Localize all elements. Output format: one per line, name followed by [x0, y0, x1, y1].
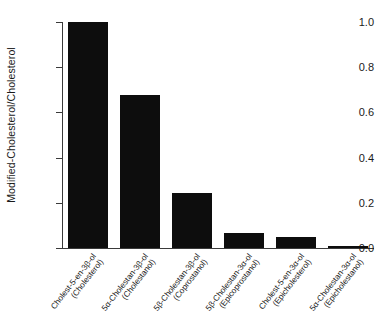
y-axis-title: Modified-Cholesterol/Cholesterol [0, 0, 22, 250]
bar[interactable] [224, 233, 264, 248]
bar[interactable] [120, 95, 160, 248]
bar[interactable] [276, 237, 316, 248]
y-axis-title-text: Modified-Cholesterol/Cholesterol [5, 47, 17, 203]
bar[interactable] [328, 246, 368, 248]
bar-chart: Modified-Cholesterol/Cholesterol 1.00.80… [0, 0, 382, 334]
plot-area [62, 22, 374, 248]
bar[interactable] [68, 22, 108, 248]
bar[interactable] [172, 193, 212, 248]
y-axis-tick [56, 248, 62, 249]
